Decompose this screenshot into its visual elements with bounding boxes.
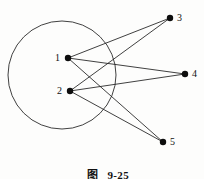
graph-edge-2-5 [70, 91, 163, 142]
figure-container: 12345 图9-25 [0, 0, 204, 179]
shapes-layer [8, 21, 116, 129]
graph-node-2 [67, 88, 73, 94]
graph-node-5 [160, 139, 166, 145]
vertex-label-4: 4 [192, 69, 197, 79]
figure-caption: 图9-25 [0, 154, 204, 179]
caption-index: 9-25 [108, 169, 129, 179]
vertex-label-3: 3 [177, 13, 182, 23]
caption-prefix: 图 [87, 169, 98, 179]
nodes-layer [65, 15, 188, 145]
graph-canvas [0, 0, 204, 179]
graph-edge-1-3 [68, 18, 170, 58]
graph-edge-1-4 [68, 58, 185, 74]
graph-edge-2-4 [70, 74, 185, 91]
graph-edge-2-3 [70, 18, 170, 91]
vertex-label-5: 5 [170, 137, 175, 147]
graph-node-3 [167, 15, 173, 21]
vertex-label-2: 2 [57, 86, 62, 96]
graph-node-4 [182, 71, 188, 77]
enclosing-circle [8, 21, 116, 129]
graph-node-1 [65, 55, 71, 61]
vertex-label-1: 1 [55, 53, 60, 63]
